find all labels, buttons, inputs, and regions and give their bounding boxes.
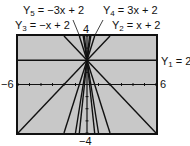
label-y4: Y4 = 3x + 2: [103, 4, 158, 20]
label-y3: Y3 = −x + 2: [15, 19, 70, 35]
xmin-label: −6: [1, 78, 14, 90]
label-y2: Y2 = x + 2: [112, 19, 161, 35]
xmax-label: 6: [160, 78, 166, 90]
pointer-y4: [95, 20, 103, 35]
ymax-label: 4: [83, 23, 89, 35]
label-y5: Y5 = −3x + 2: [23, 4, 84, 20]
label-y1: Y1 = 2: [161, 55, 190, 71]
ymin-label: −4: [79, 135, 92, 146]
